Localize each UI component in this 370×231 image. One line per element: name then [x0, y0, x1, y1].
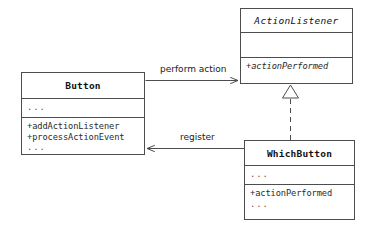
operations-compartment-action-listener: +actionPerformed	[241, 58, 352, 85]
attributes-compartment-which-button: ...	[245, 166, 354, 185]
operations-compartment-button: +addActionListener +processActionEvent .…	[22, 118, 144, 156]
class-name-compartment-action-listener: ActionListener	[241, 9, 352, 33]
attributes-placeholder-button: ...	[27, 102, 139, 113]
class-box-action-listener[interactable]: ActionListener +actionPerformed	[240, 8, 353, 84]
attributes-placeholder-which-button: ...	[250, 169, 349, 180]
class-box-button[interactable]: Button ... +addActionListener +processAc…	[21, 72, 145, 155]
class-box-which-button[interactable]: WhichButton ... +actionPerformed ...	[244, 140, 355, 220]
operations-placeholder-which-button: ...	[250, 199, 349, 210]
realization-triangle-icon	[283, 85, 299, 98]
operation-item: +actionPerformed	[246, 61, 347, 72]
operation-item: +actionPerformed	[250, 188, 349, 199]
edge-label-register: register	[180, 132, 215, 142]
uml-diagram-canvas: ActionListener +actionPerformed Button .…	[0, 0, 370, 231]
operation-item: +processActionEvent	[27, 132, 139, 143]
operations-placeholder-button: ...	[27, 142, 139, 153]
attributes-compartment-button: ...	[22, 99, 144, 118]
operations-compartment-which-button: +actionPerformed ...	[245, 185, 354, 221]
class-name-button: Button	[65, 80, 101, 91]
class-name-compartment-button: Button	[22, 73, 144, 99]
class-name-compartment-which-button: WhichButton	[245, 141, 354, 166]
class-name-action-listener: ActionListener	[254, 15, 338, 26]
operation-item: +addActionListener	[27, 121, 139, 132]
attributes-compartment-action-listener	[241, 33, 352, 58]
class-name-which-button: WhichButton	[267, 148, 332, 159]
edge-label-perform-action: perform action	[160, 64, 227, 74]
